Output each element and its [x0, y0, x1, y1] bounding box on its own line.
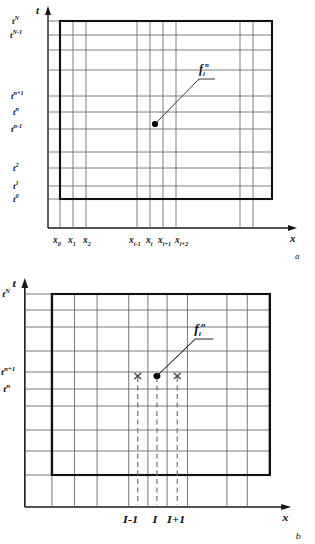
x-tick-label: xi	[145, 235, 153, 247]
annotation-f-a: fin	[152, 61, 215, 127]
y-tick-label: tn	[13, 105, 20, 117]
x-tick-label: xi+2	[174, 235, 188, 247]
x-tick-label: I+1	[166, 514, 185, 526]
axes-group-a	[45, 6, 297, 231]
x-axis-label-b: x	[281, 512, 288, 524]
x-axis-arrow-icon	[288, 225, 297, 231]
leader-line	[157, 339, 213, 376]
annotation-f-label: fin	[194, 320, 205, 337]
y-tick-label: tn-1	[11, 122, 22, 134]
y-tick-labels-a: tN tN-1 tn+1 tn tn-1 t2 t1 t0	[10, 14, 24, 204]
x-axis-label-a: x	[289, 232, 296, 244]
panel-label-a: a	[295, 251, 300, 261]
computational-domain-rect-b	[52, 294, 270, 475]
stencil-dashed-lines-b	[138, 377, 178, 505]
annotation-f-b: fin	[157, 320, 213, 376]
y-tick-label: t0	[13, 192, 19, 204]
x-tick-label: x0	[52, 235, 61, 247]
y-axis-label-a: t	[36, 4, 40, 16]
leader-line	[155, 79, 215, 124]
y-tick-label: tN-1	[10, 28, 22, 40]
x-tick-label: I-1	[122, 514, 138, 526]
figure-panel-b: fin t tN tn+1 tn I-1 I I+1 x b	[0, 265, 315, 544]
x-tick-label: I	[151, 514, 157, 526]
y-axis-arrow-icon	[21, 278, 28, 288]
y-axis-arrow-icon	[45, 6, 51, 15]
horizontal-gridlines-b	[25, 294, 270, 475]
y-axis-label-b: t	[12, 278, 16, 290]
y-tick-labels-b: tN tn+1 tn	[1, 287, 15, 394]
figure-b-svg: fin t tN tn+1 tn I-1 I I+1 x b	[0, 265, 315, 544]
figure-panel-a: fin t tN tN-1 tn+1 tn tn-1 t2 t1 t0 x0 x…	[0, 0, 315, 265]
y-tick-label: tn+1	[11, 89, 24, 101]
y-tick-label: t1	[13, 179, 19, 191]
panel-label-b: b	[296, 531, 301, 541]
x-tick-label: x1	[67, 235, 76, 247]
figure-a-svg: fin t tN tN-1 tn+1 tn tn-1 t2 t1 t0 x0 x…	[0, 0, 315, 265]
y-tick-label: tN	[12, 14, 20, 26]
annotation-f-label: fin	[199, 61, 209, 78]
horizontal-gridlines-a	[48, 21, 272, 199]
x-axis-arrow-icon	[281, 504, 291, 510]
y-tick-label: tN	[2, 287, 10, 299]
y-tick-label: t2	[13, 161, 19, 173]
x-tick-label: xi+1	[157, 235, 171, 247]
y-tick-label: tn+1	[1, 365, 15, 377]
x-tick-label: xi-1	[128, 235, 141, 247]
x-tick-labels-b: I-1 I I+1	[122, 514, 185, 526]
x-tick-label: x2	[82, 235, 91, 247]
y-tick-label: tn	[3, 382, 10, 394]
x-tick-labels-a: x0 x1 x2 xi-1 xi xi+1 xi+2	[52, 235, 188, 247]
